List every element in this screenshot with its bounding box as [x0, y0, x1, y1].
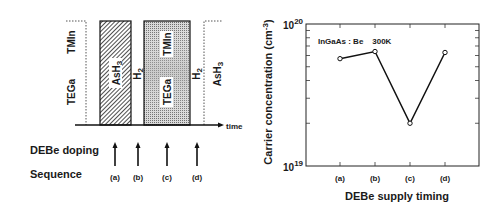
doping-arrow-icon — [165, 142, 170, 166]
x-axis-label: DEBe supply timing — [345, 190, 449, 202]
data-point-marker — [373, 49, 377, 53]
gas-sequence-diagram: time TMIn TEGa AsH3 H2 TMIn TEGa H2 AsH3… — [30, 21, 243, 182]
label-tega-left: TEGa — [66, 79, 77, 106]
y-tick-label-bottom: 1019 — [283, 159, 304, 173]
data-point-marker — [408, 121, 412, 125]
y-axis-label: Carrier concentration (cm-3) — [261, 19, 274, 165]
time-label: time — [226, 122, 243, 131]
label-tmin-left: TMIn — [66, 30, 77, 53]
data-point-marker — [443, 50, 447, 54]
x-tick-label: (a) — [335, 174, 345, 183]
x-tick-labels: (a)(b)(c)(d) — [335, 174, 450, 183]
label-tmin-block: TMIn — [162, 32, 173, 55]
y-tick-label-top: 1020 — [283, 17, 304, 31]
sequence-label: (c) — [162, 173, 172, 182]
x-tick-label: (d) — [440, 174, 451, 183]
carrier-concentration-chart: 1020 1019 InGaAs : Be 300K (a)(b)(c)(d) … — [261, 17, 479, 202]
data-point-marker — [338, 56, 342, 60]
sequence-row-label: Sequence — [30, 168, 82, 180]
doping-arrow-icon — [113, 142, 118, 166]
label-h2-first: H2 — [132, 68, 145, 80]
x-tick-label: (b) — [370, 174, 381, 183]
x-tick-label: (c) — [405, 174, 415, 183]
doping-arrow-icon — [136, 142, 141, 166]
label-ash3-right: AsH3 — [212, 61, 225, 86]
time-arrow-icon — [218, 123, 224, 128]
sequence-label: (b) — [133, 173, 144, 182]
sequence-label: (a) — [110, 173, 120, 182]
chart-annotation: InGaAs : Be 300K — [318, 37, 392, 46]
sequence-label: (d) — [192, 173, 203, 182]
label-tega-block: TEGa — [162, 79, 173, 106]
data-line — [340, 52, 445, 124]
doping-arrow-icon — [195, 142, 200, 166]
doping-row-label: DEBe doping — [30, 144, 99, 156]
label-h2-second: H2 — [191, 68, 204, 80]
figure: time TMIn TEGa AsH3 H2 TMIn TEGa H2 AsH3… — [0, 0, 502, 213]
doping-arrows — [113, 142, 200, 166]
